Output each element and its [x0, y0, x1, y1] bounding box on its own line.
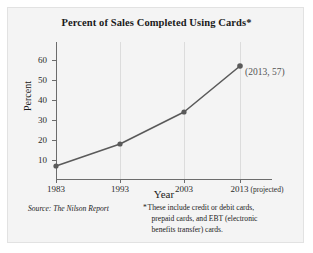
y-axis-label: Percent: [22, 81, 33, 111]
y-tick-label-60: 60: [38, 55, 47, 65]
plot-area: 10 20 30 40 50 60 1983 1993: [56, 42, 272, 180]
data-point-annotation: (2013, 57): [245, 67, 285, 77]
y-tick-label-10: 10: [38, 155, 47, 165]
figure-container: Percent of Sales Completed Using Cards* …: [7, 7, 304, 243]
y-tick-label-30: 30: [38, 115, 47, 125]
data-point-1983: [53, 163, 58, 168]
y-tick-label-40: 40: [38, 95, 47, 105]
x-axis-label: Year: [56, 188, 272, 200]
series-polyline: [56, 66, 240, 166]
footnote-line-3: benefits transfer) cards.: [148, 225, 296, 236]
y-tick-label-20: 20: [38, 135, 47, 145]
data-series-line: [56, 42, 272, 180]
data-point-2003: [181, 109, 186, 114]
data-point-2013: [237, 63, 243, 69]
source-note: Source: The Nilson Report: [28, 204, 109, 213]
data-point-1993: [117, 141, 122, 146]
footnote-body: These include credit or debit cards, pre…: [143, 203, 295, 235]
chart-title: Percent of Sales Completed Using Cards*: [8, 17, 305, 28]
footnote-line-1: These include credit or debit cards,: [148, 203, 255, 212]
footnote-marker: *: [143, 203, 147, 214]
y-tick-label-50: 50: [38, 75, 47, 85]
footnote-line-2: prepaid cards, and EBT (electronic: [148, 214, 296, 225]
footnote: * These include credit or debit cards, p…: [143, 203, 295, 235]
plot-inner: 10 20 30 40 50 60 1983 1993: [56, 42, 272, 180]
